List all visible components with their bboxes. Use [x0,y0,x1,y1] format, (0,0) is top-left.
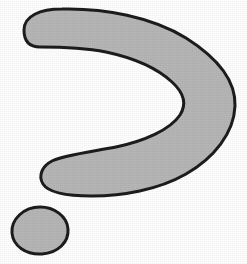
figure-canvas: Crescent hook shape with small oval [0,0,247,264]
small-oval-blob-shape [12,207,68,254]
shape-illustration: Crescent hook shape with small oval [0,0,247,264]
